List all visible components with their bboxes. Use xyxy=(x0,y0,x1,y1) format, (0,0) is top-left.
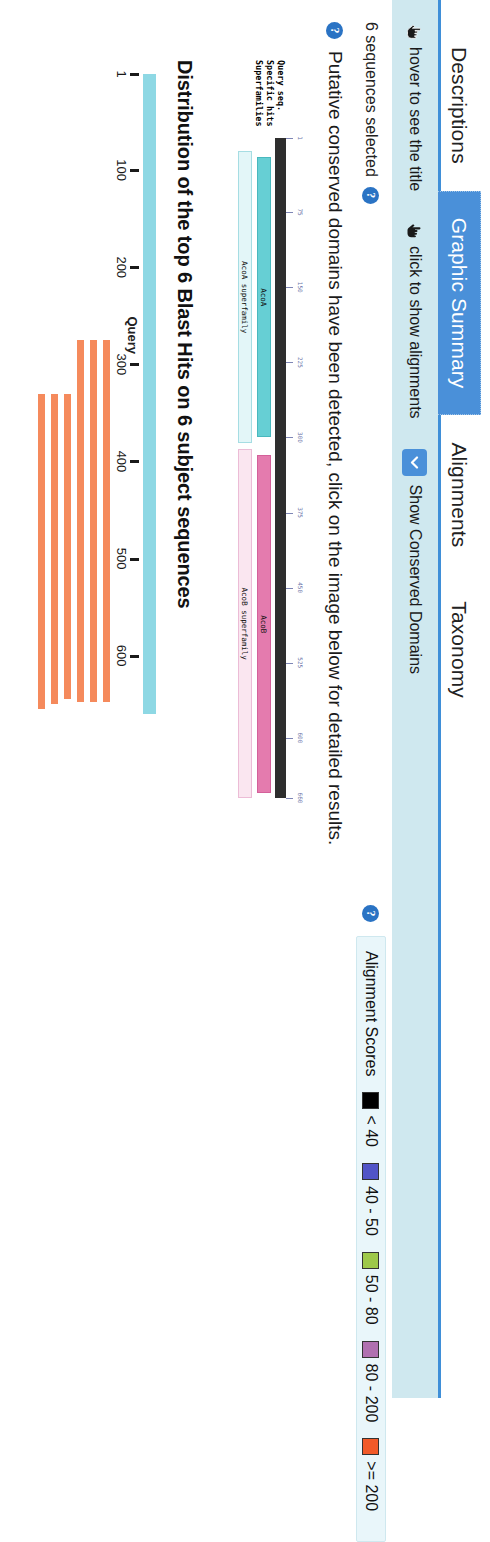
ruler-tick-label: 660 xyxy=(297,793,304,804)
chevron-down-icon[interactable] xyxy=(403,449,428,476)
ruler-tick xyxy=(286,287,293,288)
ruler-tick-label: 150 xyxy=(297,282,304,293)
legend-item: 40 - 50 xyxy=(362,1163,380,1236)
axis-tick xyxy=(130,558,139,561)
legend-items: < 4040 - 5050 - 8080 - 200>= 200 xyxy=(362,1092,380,1527)
sequences-selected-label: 6 sequences selected xyxy=(362,22,380,177)
conserved-domain-hit[interactable]: AcoA superfamily xyxy=(238,151,252,443)
axis-tick xyxy=(130,460,139,463)
ruler-tick xyxy=(286,738,293,739)
ruler-tick-label: 375 xyxy=(297,507,304,518)
blast-hit-bar[interactable] xyxy=(103,340,110,702)
legend-color-swatch xyxy=(363,1092,380,1109)
ruler-tick xyxy=(286,663,293,664)
row-label-query-seq: Query seq. xyxy=(275,60,286,132)
blast-hit-bar[interactable] xyxy=(77,340,84,702)
legend-color-swatch xyxy=(363,1438,380,1455)
graphic-summary-body: 6 sequences selected ? ? Putative conser… xyxy=(0,0,392,1398)
tab-descriptions[interactable]: Descriptions xyxy=(438,20,481,191)
tab-taxonomy[interactable]: Taxonomy xyxy=(438,574,481,725)
axis-tick xyxy=(130,169,139,172)
legend-item: >= 200 xyxy=(362,1438,380,1511)
results-tabstrip: Descriptions Graphic Summary Alignments … xyxy=(438,0,490,1398)
tab-list: Descriptions Graphic Summary Alignments … xyxy=(438,0,490,1398)
help-circle-icon[interactable]: ? xyxy=(327,22,344,39)
ruler-tick xyxy=(286,798,293,799)
alignment-scores-legend-wrapper: ? Alignment Scores < 4040 - 5050 - 8080 … xyxy=(356,905,386,1542)
ruler-tick-label: 75 xyxy=(297,208,304,215)
ruler-tick-label: 600 xyxy=(297,732,304,743)
axis-tick-label: 400 xyxy=(114,451,129,473)
axis-tick-label: 1 xyxy=(114,70,129,77)
conserved-domain-hit[interactable]: AcoB superfamily xyxy=(238,449,252,798)
axis-tick-label: 600 xyxy=(114,645,129,667)
conserved-domains-track: 175150225300375450525600660 AcoAAcoB Aco… xyxy=(208,138,304,798)
legend-color-swatch xyxy=(363,1163,380,1180)
blast-hit-bar[interactable] xyxy=(90,340,97,702)
ruler-tick xyxy=(286,513,293,514)
graphic-summary-toolbar: hover to see the title click to show ali… xyxy=(392,0,438,1398)
axis-tick-label: 300 xyxy=(114,354,129,376)
tab-graphic-summary-label: Graphic Summary xyxy=(448,218,471,389)
axis-tick xyxy=(130,655,139,658)
axis-tick xyxy=(130,266,139,269)
ruler-tick-label: 525 xyxy=(297,657,304,668)
axis-tick xyxy=(130,363,139,366)
axis-tick-label: 200 xyxy=(114,256,129,278)
chart-hit-bars xyxy=(18,74,110,714)
legend-item-label: 40 - 50 xyxy=(362,1186,380,1236)
superfamilies-row: AcoA superfamilyAcoB superfamily xyxy=(238,138,252,798)
axis-tick xyxy=(130,73,139,76)
hand-pointer-icon xyxy=(406,221,424,239)
hand-pointer-icon xyxy=(406,22,424,40)
ruler-tick xyxy=(286,212,293,213)
legend-item-label: >= 200 xyxy=(362,1461,380,1511)
conserved-domains-message-row: ? Putative conserved domains have been d… xyxy=(324,22,346,845)
ruler-tick-label: 450 xyxy=(297,582,304,593)
show-conserved-domains-control[interactable]: Show Conserved Domains xyxy=(403,449,428,674)
row-label-superfamilies: Superfamilies xyxy=(253,60,264,132)
legend-color-swatch xyxy=(363,1341,380,1358)
conserved-domains-graphic[interactable]: Query seq. Specific hits Superfamilies 1… xyxy=(208,60,304,800)
tab-descriptions-label: Descriptions xyxy=(448,47,471,164)
blast-hit-bar[interactable] xyxy=(51,394,58,705)
chart-x-axis: 1100200300400500600 xyxy=(115,74,139,714)
help-circle-icon[interactable]: ? xyxy=(363,905,380,922)
query-sequence-bar xyxy=(275,138,286,798)
legend-item-label: 50 - 80 xyxy=(362,1275,380,1325)
blast-hit-bar[interactable] xyxy=(64,394,71,700)
conserved-domain-hit[interactable]: AcoB xyxy=(257,455,271,793)
axis-tick-label: 100 xyxy=(114,159,129,181)
specific-hits-row: AcoAAcoB xyxy=(257,138,271,798)
chart-plot-area: Query 1100200300400500600 xyxy=(16,74,156,714)
alignment-scores-legend: Alignment Scores < 4040 - 5050 - 8080 - … xyxy=(356,936,386,1542)
sequences-selected-row: 6 sequences selected ? xyxy=(362,22,380,204)
help-circle-icon[interactable]: ? xyxy=(363,187,380,204)
ruler-tick-label: 225 xyxy=(297,357,304,368)
hover-to-see-title-hint: hover to see the title xyxy=(406,22,424,191)
blast-hit-distribution-chart: Distribution of the top 6 Blast Hits on … xyxy=(6,60,196,820)
tab-alignments-label: Alignments xyxy=(448,442,471,547)
hover-to-see-title-label: hover to see the title xyxy=(406,47,424,191)
query-coverage-bar xyxy=(143,74,156,714)
legend-color-swatch xyxy=(363,1252,380,1269)
ruler-tick-label: 300 xyxy=(297,432,304,443)
conserved-domains-message: Putative conserved domains have been det… xyxy=(324,51,346,845)
conserved-domains-ruler: 175150225300375450525600660 xyxy=(286,138,304,798)
conserved-domains-row-labels: Query seq. Specific hits Superfamilies xyxy=(253,60,286,132)
ruler-tick xyxy=(286,588,293,589)
tab-taxonomy-label: Taxonomy xyxy=(448,601,471,698)
ruler-tick xyxy=(286,437,293,438)
legend-item: < 40 xyxy=(362,1092,380,1147)
tab-graphic-summary[interactable]: Graphic Summary xyxy=(438,191,481,416)
show-conserved-domains-label: Show Conserved Domains xyxy=(406,485,424,674)
legend-item: 50 - 80 xyxy=(362,1252,380,1325)
blast-hit-bar[interactable] xyxy=(38,394,45,710)
chart-title: Distribution of the top 6 Blast Hits on … xyxy=(173,60,196,609)
axis-tick-label: 500 xyxy=(114,548,129,570)
legend-item-label: 80 - 200 xyxy=(362,1364,380,1423)
tab-alignments[interactable]: Alignments xyxy=(438,415,481,574)
conserved-domain-hit[interactable]: AcoA xyxy=(257,157,271,437)
